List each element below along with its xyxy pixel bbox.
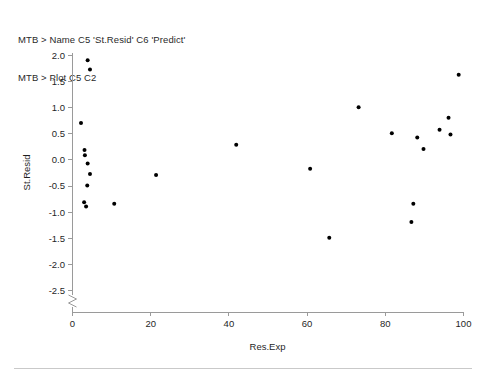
x-tick-label: 20 [145, 318, 156, 329]
minitab-plot-page: MTB > Name C5 'St.Resid' C6 'Predict' MT… [0, 0, 486, 378]
data-point [83, 148, 87, 152]
y-tick-label: -1.5 [49, 233, 65, 244]
data-point [448, 132, 452, 136]
data-points-layer [79, 58, 461, 240]
x-tick-label: 100 [456, 318, 472, 329]
data-point [422, 147, 426, 151]
x-axis-title: Res.Exp [250, 341, 286, 352]
scatter-plot: -2.5-2.0-1.5-1.0-0.50.00.51.01.52.002040… [0, 0, 486, 378]
x-tick-label: 60 [302, 318, 313, 329]
data-point [86, 162, 90, 166]
y-tick-label: 1.5 [52, 76, 65, 87]
data-point [112, 202, 116, 206]
data-point [357, 105, 361, 109]
data-point [415, 136, 419, 140]
data-point [327, 236, 331, 240]
y-tick-label: 2.0 [52, 50, 65, 61]
data-point [154, 173, 158, 177]
data-point [438, 128, 442, 132]
data-point [84, 204, 88, 208]
y-tick-label: 1.0 [52, 102, 65, 113]
y-tick-label: -2.0 [49, 259, 65, 270]
data-point [79, 121, 83, 125]
y-tick-label: -2.5 [49, 285, 65, 296]
data-point [409, 220, 413, 224]
y-axis-break-icon [69, 295, 77, 307]
y-tick-label: -1.0 [49, 207, 65, 218]
data-point [83, 153, 87, 157]
x-tick-label: 80 [380, 318, 391, 329]
x-tick-label: 0 [70, 318, 75, 329]
footer-rule [14, 368, 472, 369]
y-axis-title: St.Resid [21, 155, 32, 191]
y-tick-label: -0.5 [49, 180, 65, 191]
data-point [88, 172, 92, 176]
axes-layer: -2.5-2.0-1.5-1.0-0.50.00.51.01.52.002040… [49, 50, 472, 329]
data-point [457, 73, 461, 77]
y-tick-label: 0.5 [52, 128, 65, 139]
x-tick-label: 40 [224, 318, 235, 329]
data-point [447, 116, 451, 120]
data-point [390, 131, 394, 135]
data-point [82, 200, 86, 204]
data-point [234, 143, 238, 147]
y-tick-label: 0.0 [52, 154, 65, 165]
data-point [85, 184, 89, 188]
data-point [308, 167, 312, 171]
data-point [88, 68, 92, 72]
data-point [411, 202, 415, 206]
data-point [86, 58, 90, 62]
